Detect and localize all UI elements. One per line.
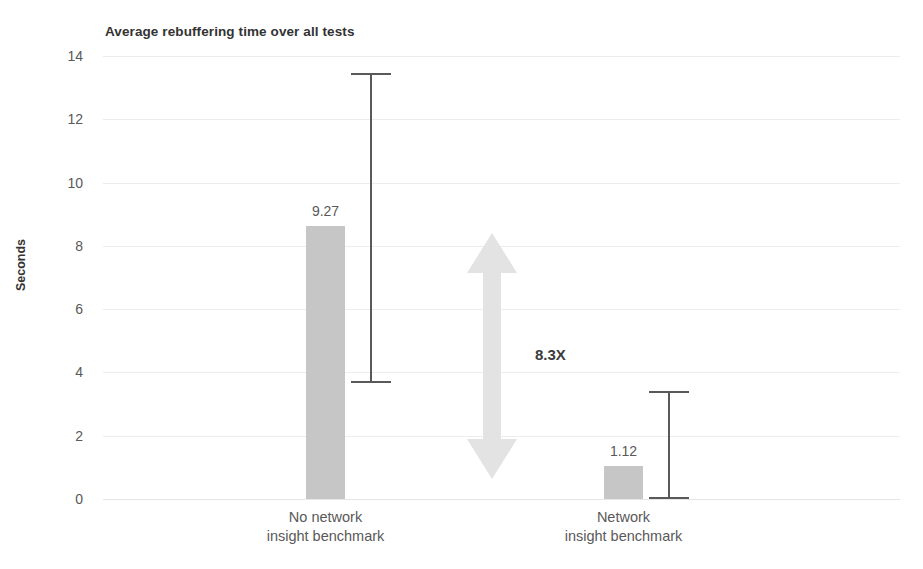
y-tick-label: 0 xyxy=(23,491,83,507)
axis-baseline xyxy=(103,499,900,500)
error-bar-cap-bottom-2 xyxy=(649,497,689,499)
bar-value-label: 1.12 xyxy=(610,443,637,459)
error-bar-stem-2 xyxy=(668,391,670,499)
bar-network-insight-benchmark xyxy=(604,466,643,499)
error-bar-cap-bottom-1 xyxy=(351,381,391,383)
ratio-double-arrow-icon xyxy=(461,231,523,481)
gridline xyxy=(103,183,900,184)
bar-value-label: 9.27 xyxy=(312,203,339,219)
y-tick-label: 10 xyxy=(23,175,83,191)
category-label-network-insight-benchmark: Network insight benchmark xyxy=(565,508,683,546)
bar-no-network-insight-benchmark xyxy=(306,226,345,499)
error-bar-cap-top-2 xyxy=(649,391,689,393)
chart-title: Average rebuffering time over all tests xyxy=(105,24,354,39)
ratio-annotation-label: 8.3X xyxy=(535,346,566,363)
category-label-line: insight benchmark xyxy=(267,527,385,546)
error-bar-cap-top-1 xyxy=(351,73,391,75)
category-label-line: Network xyxy=(565,508,683,527)
y-tick-label: 8 xyxy=(23,238,83,254)
y-tick-label: 2 xyxy=(23,428,83,444)
y-tick-label: 14 xyxy=(23,48,83,64)
y-tick-label: 12 xyxy=(23,111,83,127)
gridline xyxy=(103,56,900,57)
y-tick-label: 6 xyxy=(23,301,83,317)
error-bar-stem-1 xyxy=(370,73,372,383)
y-tick-label: 4 xyxy=(23,364,83,380)
category-label-no-network-insight-benchmark: No network insight benchmark xyxy=(267,508,385,546)
plot-area: 9.27 1.12 8.3X xyxy=(103,56,900,499)
chart-container: Average rebuffering time over all tests … xyxy=(0,0,923,569)
category-label-line: insight benchmark xyxy=(565,527,683,546)
y-axis-tick-labels: 14 12 10 8 6 4 2 0 xyxy=(23,56,83,499)
category-label-line: No network xyxy=(267,508,385,527)
gridline xyxy=(103,119,900,120)
